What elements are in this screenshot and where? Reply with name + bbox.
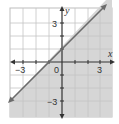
y-tick-label-3: 3 xyxy=(52,19,57,29)
x-tick-label-3: 3 xyxy=(97,65,102,75)
origin-label: 0 xyxy=(54,65,59,75)
y-axis-label: y xyxy=(64,5,70,16)
x-tick-label-neg3: −3 xyxy=(15,65,25,75)
inequality-graph: y x 3 −3 −3 3 0 xyxy=(0,0,119,124)
y-tick-label-neg3: −3 xyxy=(47,97,57,107)
x-axis-label: x xyxy=(107,48,113,59)
